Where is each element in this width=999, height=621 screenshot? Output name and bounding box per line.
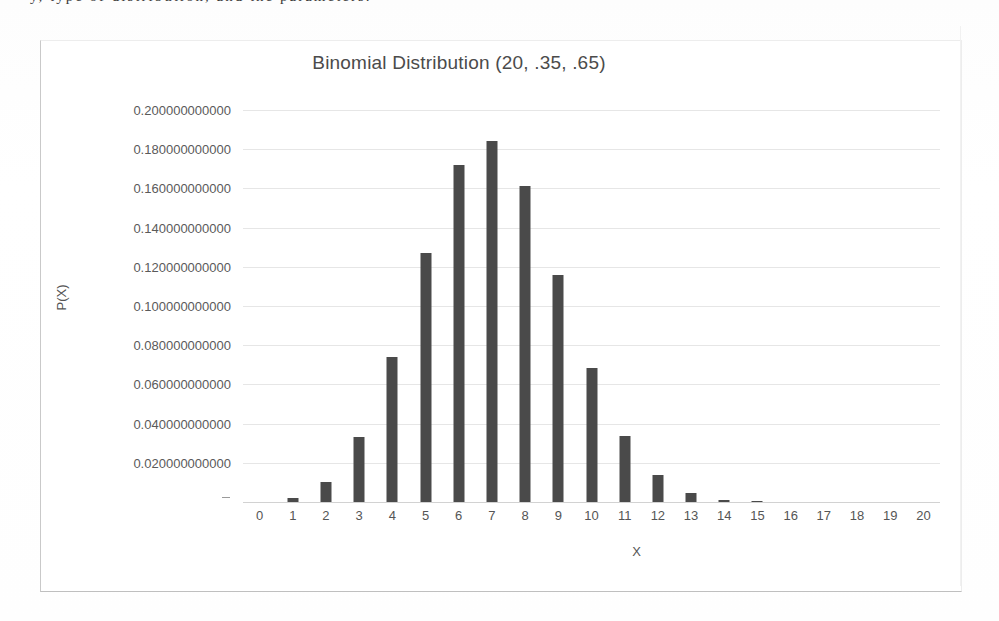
cut-off-text: y, type of distribution, and the paramet… [30,0,372,4]
x-axis-title-text: X [632,544,641,559]
x-axis-tick-label: 9 [555,508,562,523]
x-axis-tick-label: 2 [322,508,329,523]
x-axis-tick-label: 1 [289,508,296,523]
plot-area [243,110,940,502]
gridline [243,110,940,111]
x-axis-tick-label: 15 [750,508,764,523]
y-axis-tick-label: 0.060000000000 [133,377,231,392]
x-axis-tick-labels: 01234567891011121314151617181920 [243,508,940,532]
x-axis-tick-label: 8 [521,508,528,523]
x-axis-tick-label: 16 [783,508,797,523]
x-axis-tick-label: 13 [684,508,698,523]
chart-title: Binomial Distribution (20, .35, .65) [40,52,962,74]
x-axis-title: X [243,544,940,559]
y-axis-tick-label: 0.140000000000 [133,220,231,235]
bar [752,501,763,503]
y-axis-tick-label: 0.020000000000 [133,455,231,470]
x-axis-tick-label: 11 [618,508,632,523]
x-axis-tick-label: 7 [488,508,495,523]
y-axis-tick-label: 0.200000000000 [133,103,231,118]
bar [420,253,431,502]
y-axis-tick-labels: 0.2000000000000.1800000000000.1600000000… [88,110,231,502]
bar [354,437,365,503]
bar [586,368,597,502]
gridline [243,228,940,229]
x-axis-tick-label: 6 [455,508,462,523]
bar [387,357,398,502]
y-axis-tick-label: 0.080000000000 [133,338,231,353]
y-axis-tick-label: 0.100000000000 [133,299,231,314]
bar [320,482,331,502]
gridline [243,188,940,189]
bar [486,141,497,502]
x-axis-tick-label: 19 [883,508,897,523]
gridline [243,345,940,346]
gridline [243,306,940,307]
x-axis-tick-label: 0 [256,508,263,523]
chart-title-text: Binomial Distribution (20, .35, .65) [312,52,605,73]
gridline [243,267,940,268]
bar [652,475,663,502]
bar [719,500,730,502]
bar [619,436,630,502]
x-axis-tick-label: 3 [356,508,363,523]
x-axis-tick-label: 14 [717,508,731,523]
x-axis-tick-label: 18 [850,508,864,523]
bar [553,275,564,502]
x-axis-tick-label: 4 [389,508,396,523]
x-axis-tick-label: 20 [916,508,930,523]
y-axis-tick-label: 0.160000000000 [133,181,231,196]
y-axis-tick-label: 0.120000000000 [133,259,231,274]
x-axis-tick-label: 17 [817,508,831,523]
y-axis-title: P(X) [54,285,69,311]
y-axis-zero-tick [222,497,230,498]
scan-artifact-line [960,26,961,586]
y-axis-tick-label: 0.040000000000 [133,416,231,431]
bar [520,186,531,502]
bar [686,493,697,502]
x-axis-tick-label: 10 [584,508,598,523]
x-axis-tick-label: 12 [651,508,665,523]
gridline [243,149,940,150]
bar [453,165,464,502]
x-axis-tick-label: 5 [422,508,429,523]
x-axis-baseline [243,502,940,503]
bar [287,498,298,502]
cut-off-text-sliver: y, type of distribution, and the paramet… [0,0,999,8]
y-axis-tick-label: 0.180000000000 [133,142,231,157]
